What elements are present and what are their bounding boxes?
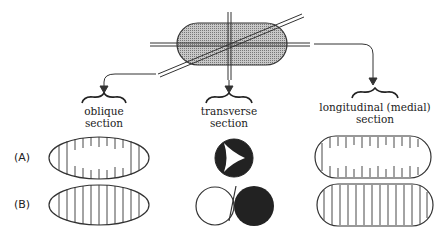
row-label-b: (B) — [14, 198, 30, 211]
label-line1: oblique — [64, 105, 144, 117]
diagram-canvas: oblique section transverse section longi… — [0, 0, 444, 237]
row-label-a: (A) — [14, 151, 30, 164]
transverse-section-B — [196, 186, 274, 226]
label-line2: section — [64, 117, 144, 129]
label-line1: longitudinal (medial) — [305, 101, 444, 113]
label-line2: section — [189, 117, 269, 129]
cutting-planes — [150, 12, 310, 80]
oblique-section-A — [49, 137, 149, 179]
longitudinal-section-A — [315, 136, 431, 178]
label-line2: section — [305, 113, 444, 125]
label-longitudinal-section: longitudinal (medial) section — [305, 101, 444, 125]
label-line1: transverse — [189, 105, 269, 117]
label-oblique-section: oblique section — [64, 105, 144, 129]
oblique-section-B — [49, 185, 149, 225]
transverse-section-A — [215, 139, 253, 177]
label-transverse-section: transverse section — [189, 105, 269, 129]
arrow-oblique — [100, 74, 156, 93]
arrow-longitudinal — [314, 44, 377, 85]
longitudinal-section-B — [317, 184, 433, 226]
arrow-transverse — [225, 80, 233, 93]
